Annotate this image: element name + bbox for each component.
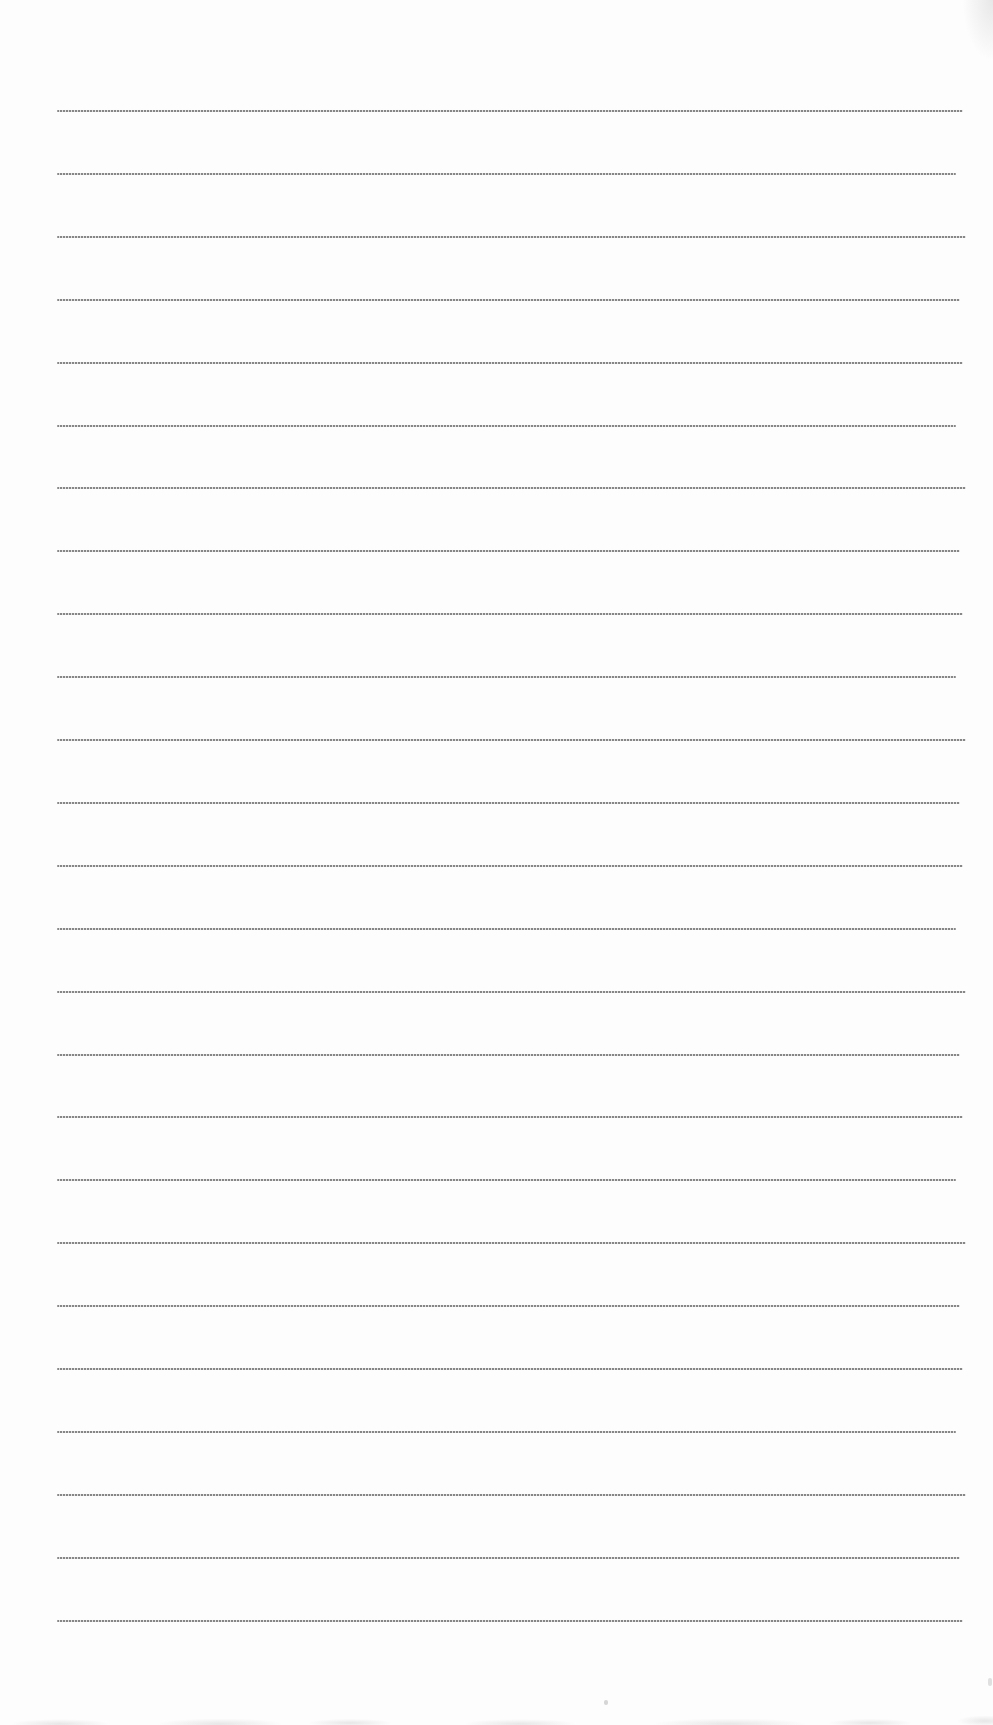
ruled-line [57, 1557, 960, 1559]
ruled-line [57, 1242, 966, 1244]
ruled-line [57, 425, 956, 427]
ruled-line [57, 1179, 956, 1181]
scan-speck [988, 1678, 992, 1686]
notebook-page [0, 0, 993, 1725]
ruled-line [57, 1116, 963, 1118]
ruled-line [57, 362, 963, 364]
ruled-line [57, 299, 960, 301]
ruled-line [57, 1431, 956, 1433]
scan-smudge-top-right [963, 0, 993, 60]
ruled-line [57, 1494, 966, 1496]
scan-speck [604, 1700, 608, 1705]
ruled-line [57, 110, 963, 112]
ruled-line [57, 802, 960, 804]
ruled-line [57, 487, 966, 489]
ruled-line [57, 613, 963, 615]
ruled-line [57, 676, 956, 678]
ruled-line [57, 865, 963, 867]
ruled-line [57, 928, 956, 930]
ruled-line [57, 1305, 960, 1307]
ruled-line [57, 173, 956, 175]
ruled-line [57, 991, 966, 993]
ruled-line [57, 1620, 963, 1622]
ruling [0, 0, 993, 1725]
ruled-line [57, 739, 966, 741]
ruled-line [57, 550, 960, 552]
ruled-line [57, 1054, 960, 1056]
ruled-line [57, 1368, 963, 1370]
ruled-line [57, 236, 966, 238]
scan-smudge-bottom-edge [0, 1709, 993, 1725]
